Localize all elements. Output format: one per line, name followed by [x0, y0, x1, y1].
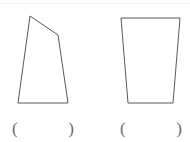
- figure-quadrilateral: [18, 16, 68, 103]
- answer-input-trapezoid[interactable]: [126, 128, 177, 129]
- worksheet-canvas: ( ) ( ): [0, 0, 190, 142]
- close-paren-left: ): [68, 120, 74, 137]
- answer-input-quadrilateral[interactable]: [18, 128, 69, 129]
- answer-blank-quadrilateral[interactable]: ( ): [12, 116, 74, 140]
- answer-blank-trapezoid[interactable]: ( ): [120, 116, 182, 140]
- close-paren-right: ): [176, 120, 182, 137]
- figure-trapezoid: [121, 18, 180, 103]
